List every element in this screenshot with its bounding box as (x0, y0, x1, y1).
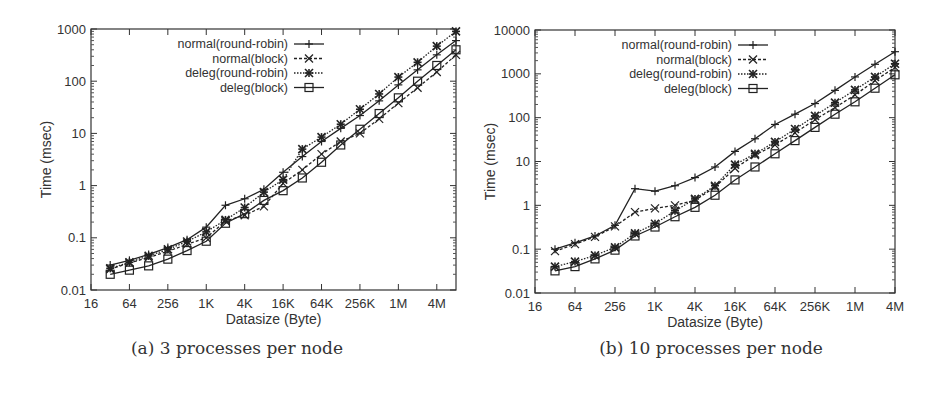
chart-b-plot: 0.010.111010010001000016642561K4K16K64K2… (474, 0, 948, 330)
legend-label: deleg(round-robin) (185, 66, 288, 80)
legend-marker-icon (749, 70, 757, 78)
y-axis-title: Time (msec) (38, 121, 54, 198)
x-tick-label: 4K (687, 299, 703, 314)
x-tick-label: 4M (428, 296, 446, 311)
chart-panel-b: 0.010.111010010001000016642561K4K16K64K2… (474, 0, 948, 394)
legend-label: normal(round-robin) (622, 38, 732, 52)
chart-a-plot: 0.010.1110100100016642561K4K16K64K256K1M… (0, 0, 474, 330)
x-axis-title: Datasize (Byte) (667, 314, 763, 330)
legend-marker-icon (749, 41, 757, 49)
x-tick-label: 16 (528, 299, 542, 314)
x-tick-label: 16K (272, 296, 295, 311)
x-axis-title: Datasize (Byte) (226, 311, 322, 327)
legend-marker-icon (305, 69, 313, 77)
x-tick-label: 64K (310, 296, 333, 311)
legend-label: deleg(block) (664, 82, 732, 96)
y-axis-title: Time (msec) (482, 123, 498, 200)
x-tick-label: 4M (886, 299, 904, 314)
x-tick-label: 64 (568, 299, 582, 314)
y-tick-label: 10000 (494, 23, 530, 38)
x-tick-label: 1K (647, 299, 663, 314)
y-tick-label: 0.01 (61, 283, 86, 298)
legend-label: deleg(round-robin) (629, 67, 732, 81)
legend: normal(round-robin)normal(block)deleg(ro… (178, 37, 324, 95)
x-tick-label: 4K (237, 296, 253, 311)
x-tick-label: 1K (198, 296, 214, 311)
x-tick-label: 256K (345, 296, 376, 311)
y-tick-label: 1 (79, 178, 86, 193)
chart-a-caption: (a) 3 processes per node (0, 338, 474, 358)
legend-marker-icon (305, 40, 313, 48)
chart-b-caption: (b) 10 processes per node (474, 338, 948, 358)
series-deleg-block (551, 71, 899, 275)
y-tick-label: 0.1 (512, 242, 530, 257)
y-tick-label: 100 (64, 74, 86, 89)
legend-label: deleg(block) (220, 81, 288, 95)
y-tick-label: 1000 (57, 22, 86, 37)
legend-label: normal(round-robin) (178, 37, 288, 51)
x-tick-label: 16 (84, 296, 98, 311)
legend-label: normal(block) (212, 52, 288, 66)
x-tick-label: 16K (723, 299, 746, 314)
x-tick-label: 64 (122, 296, 136, 311)
x-tick-label: 64K (763, 299, 786, 314)
x-tick-label: 1M (389, 296, 407, 311)
y-tick-label: 1 (523, 198, 530, 213)
y-tick-label: 10 (516, 154, 530, 169)
x-tick-label: 256 (604, 299, 626, 314)
x-tick-label: 256K (800, 299, 831, 314)
y-tick-label: 1000 (501, 66, 530, 81)
y-tick-label: 0.01 (505, 286, 530, 301)
x-tick-label: 1M (846, 299, 864, 314)
x-tick-label: 256 (157, 296, 179, 311)
legend: normal(round-robin)normal(block)deleg(ro… (622, 38, 768, 96)
chart-panel-a: 0.010.1110100100016642561K4K16K64K256K1M… (0, 0, 474, 394)
y-tick-label: 100 (508, 110, 530, 125)
y-tick-label: 10 (72, 126, 86, 141)
legend-label: normal(block) (656, 53, 732, 67)
y-tick-label: 0.1 (68, 230, 86, 245)
